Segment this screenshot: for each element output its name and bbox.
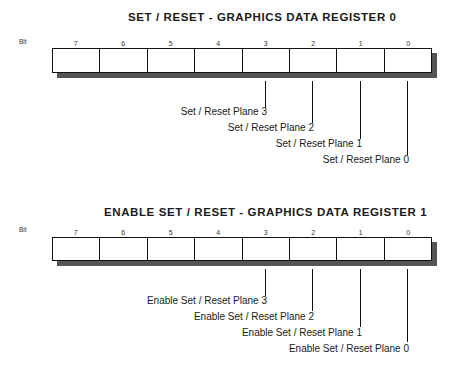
bit-cell-7: [53, 238, 100, 260]
leader-line-bit-2: [312, 81, 313, 123]
bit-number-4: 4: [195, 40, 243, 47]
bit-cell-3: [243, 238, 290, 260]
leader-line-bit-3: [265, 81, 266, 108]
leader-line-bit-2: [312, 269, 313, 311]
bit-cell-4: [195, 49, 242, 72]
bit-cell-0: [385, 49, 431, 72]
register-1-bits: [52, 237, 432, 261]
bit-cell-0: [385, 238, 431, 260]
bit-cell-6: [100, 238, 147, 260]
leader-line-bit-0: [407, 81, 408, 155]
bit-cell-2: [290, 49, 337, 72]
bit-number-7: 7: [52, 229, 100, 236]
bit-number-6: 6: [100, 40, 148, 47]
bit-cell-5: [148, 238, 195, 260]
bit-number-2: 2: [290, 229, 338, 236]
bit-number-1: 1: [337, 40, 385, 47]
register-1-title: ENABLE SET / RESET - GRAPHICS DATA REGIS…: [104, 206, 427, 218]
register-0-bits: [52, 48, 432, 73]
bit-number-3: 3: [242, 40, 290, 47]
field-label-enable-plane-0: Enable Set / Reset Plane 0: [289, 343, 409, 354]
field-label-enable-plane-2: Enable Set / Reset Plane 2: [194, 311, 314, 322]
field-label-plane-0: Set / Reset Plane 0: [323, 154, 409, 165]
field-label-enable-plane-1: Enable Set / Reset Plane 1: [242, 327, 362, 338]
field-label-plane-3: Set / Reset Plane 3: [181, 106, 267, 117]
bit-cell-3: [243, 49, 290, 72]
bit-cell-2: [290, 238, 337, 260]
bit-cell-7: [53, 49, 100, 72]
bit-number-0: 0: [385, 229, 433, 236]
register-0-title: SET / RESET - GRAPHICS DATA REGISTER 0: [128, 11, 397, 23]
bit-cell-1: [337, 238, 384, 260]
leader-line-bit-3: [265, 269, 266, 296]
leader-line-bit-0: [407, 269, 408, 342]
bit-label: Bit: [19, 226, 27, 233]
field-label-plane-1: Set / Reset Plane 1: [276, 138, 362, 149]
bit-number-1: 1: [337, 229, 385, 236]
bit-number-5: 5: [147, 40, 195, 47]
bit-cell-1: [337, 49, 384, 72]
bit-number-0: 0: [385, 40, 433, 47]
bit-number-5: 5: [147, 229, 195, 236]
bit-number-4: 4: [195, 229, 243, 236]
bit-cell-5: [148, 49, 195, 72]
field-label-plane-2: Set / Reset Plane 2: [228, 122, 314, 133]
bit-number-7: 7: [52, 40, 100, 47]
leader-line-bit-1: [360, 269, 361, 327]
leader-line-bit-1: [360, 81, 361, 139]
bit-cell-6: [100, 49, 147, 72]
bit-cell-4: [195, 238, 242, 260]
bit-label: Bit: [19, 38, 27, 45]
bit-number-2: 2: [290, 40, 338, 47]
bit-number-3: 3: [242, 229, 290, 236]
field-label-enable-plane-3: Enable Set / Reset Plane 3: [147, 295, 267, 306]
bit-number-6: 6: [100, 229, 148, 236]
